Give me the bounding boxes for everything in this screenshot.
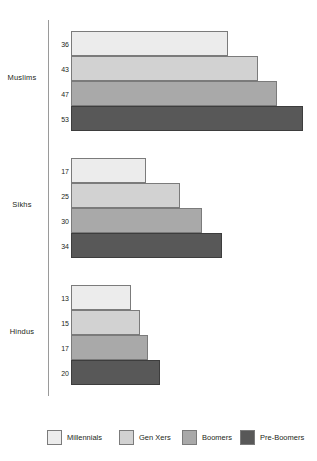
bar-row: 17 (50, 335, 317, 360)
bar-value-label: 17 (50, 167, 69, 174)
bar-row: 43 (50, 56, 317, 81)
bar-muslims-millennials[interactable] (71, 31, 228, 56)
bar-value-label: 20 (50, 369, 69, 376)
legend-label: Millennials (67, 433, 102, 442)
bar-value-label: 43 (50, 65, 69, 72)
bar-value-label: 15 (50, 319, 69, 326)
bar-muslims-boomers[interactable] (71, 81, 277, 106)
bar-row: 13 (50, 285, 317, 310)
chart-legend: Millennials Gen Xers Boomers Pre-Boomers (0, 424, 317, 450)
bar-row: 36 (50, 31, 317, 56)
bar-row: 15 (50, 310, 317, 335)
legend-item-gen-xers[interactable]: Gen Xers (119, 424, 171, 450)
group-label-muslims: Muslims (0, 73, 44, 82)
legend-label: Pre-Boomers (260, 433, 304, 442)
bar-row: 53 (50, 106, 317, 131)
bar-row: 34 (50, 233, 317, 258)
legend-item-millennials[interactable]: Millennials (47, 424, 102, 450)
bar-hindus-pre-boomers[interactable] (71, 360, 160, 385)
bar-value-label: 53 (50, 115, 69, 122)
legend-swatch-icon (240, 430, 255, 445)
group-label-hindus: Hindus (0, 327, 44, 336)
bar-value-label: 17 (50, 344, 69, 351)
bar-row: 25 (50, 183, 317, 208)
legend-swatch-icon (47, 430, 62, 445)
bar-hindus-boomers[interactable] (71, 335, 148, 360)
legend-swatch-icon (119, 430, 134, 445)
bar-group-sikhs: Sikhs 17 25 30 34 (0, 158, 317, 258)
bar-sikhs-millennials[interactable] (71, 158, 146, 183)
bar-value-label: 30 (50, 217, 69, 224)
bar-value-label: 36 (50, 40, 69, 47)
bar-row: 30 (50, 208, 317, 233)
bar-value-label: 34 (50, 242, 69, 249)
bar-muslims-pre-boomers[interactable] (71, 106, 303, 131)
bar-chart: Muslims 36 43 47 53 Sikhs 17 25 30 (0, 0, 317, 461)
legend-label: Boomers (202, 433, 232, 442)
group-label-sikhs: Sikhs (0, 200, 44, 209)
legend-label: Gen Xers (139, 433, 171, 442)
legend-item-boomers[interactable]: Boomers (182, 424, 232, 450)
bar-hindus-millennials[interactable] (71, 285, 131, 310)
bar-muslims-gen-xers[interactable] (71, 56, 258, 81)
bar-value-label: 13 (50, 294, 69, 301)
bar-row: 20 (50, 360, 317, 385)
bar-group-muslims: Muslims 36 43 47 53 (0, 31, 317, 131)
bar-sikhs-gen-xers[interactable] (71, 183, 180, 208)
legend-swatch-icon (182, 430, 197, 445)
bar-group-hindus: Hindus 13 15 17 20 (0, 285, 317, 385)
bar-sikhs-boomers[interactable] (71, 208, 202, 233)
bar-hindus-gen-xers[interactable] (71, 310, 140, 335)
bar-row: 17 (50, 158, 317, 183)
bar-row: 47 (50, 81, 317, 106)
bar-value-label: 25 (50, 192, 69, 199)
bar-sikhs-pre-boomers[interactable] (71, 233, 222, 258)
bar-value-label: 47 (50, 90, 69, 97)
legend-item-pre-boomers[interactable]: Pre-Boomers (240, 424, 304, 450)
